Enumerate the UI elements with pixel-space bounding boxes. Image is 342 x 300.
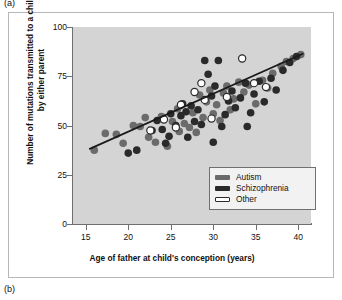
y-tick-mark: [67, 224, 72, 225]
x-tick-mark: [213, 225, 214, 230]
data-point: [209, 138, 217, 146]
legend-item-schizophrenia[interactable]: Schizophrenia: [215, 183, 310, 194]
legend-label: Other: [236, 194, 257, 205]
data-point: [102, 130, 110, 138]
data-point: [211, 82, 219, 90]
data-point: [215, 57, 223, 65]
data-point: [204, 70, 212, 78]
legend-label: Schizophrenia: [236, 183, 289, 194]
x-tick-label: 35: [244, 232, 268, 242]
data-point: [218, 123, 226, 131]
data-point: [201, 57, 209, 65]
x-tick-mark: [298, 225, 299, 230]
data-point: [213, 101, 221, 109]
data-point: [243, 123, 251, 131]
series-autism: [90, 51, 304, 154]
x-tick-mark: [256, 225, 257, 230]
y-tick-mark: [67, 175, 72, 176]
chart-legend: AutismSchizophreniaOther: [209, 167, 316, 210]
y-tick-label: 100: [41, 22, 67, 32]
x-tick-mark: [128, 225, 129, 230]
x-axis-title: Age of father at child's conception (yea…: [9, 253, 335, 263]
data-point: [141, 114, 149, 122]
y-tick-mark: [67, 27, 72, 28]
data-point: [182, 108, 190, 116]
data-point: [152, 138, 160, 146]
data-point: [250, 80, 257, 87]
y-tick-label: 25: [41, 170, 67, 180]
data-point: [192, 129, 200, 137]
legend-swatch-open-circle-icon: [215, 197, 230, 202]
data-point: [184, 134, 192, 142]
x-tick-mark: [171, 225, 172, 230]
data-point: [158, 126, 166, 134]
data-point: [172, 124, 179, 131]
data-point: [272, 86, 280, 94]
data-point: [260, 98, 268, 106]
data-point: [198, 121, 206, 129]
data-point: [247, 109, 255, 117]
figure-frame: Number of mutations transmitted to a chi…: [8, 12, 334, 278]
data-point: [221, 111, 229, 119]
y-tick-mark: [67, 76, 72, 77]
data-point: [250, 90, 258, 98]
y-tick-label: 75: [41, 71, 67, 81]
data-point: [191, 88, 198, 95]
data-point: [232, 104, 240, 112]
legend-swatch-filled-circle-icon: [215, 186, 230, 191]
data-point: [119, 139, 127, 147]
data-point: [267, 74, 275, 82]
legend-item-autism[interactable]: Autism: [215, 172, 310, 183]
data-point: [186, 124, 194, 132]
x-tick-label: 40: [286, 232, 310, 242]
data-point: [162, 139, 170, 147]
data-point: [198, 80, 205, 87]
data-point: [223, 93, 230, 100]
data-point: [165, 133, 173, 141]
data-point: [133, 146, 141, 154]
panel-label-a: (a): [4, 0, 15, 8]
y-tick-label: 50: [41, 121, 67, 131]
x-tick-label: 20: [116, 232, 140, 242]
series-schizophrenia: [124, 53, 300, 157]
legend-label: Autism: [236, 172, 261, 183]
data-point: [279, 67, 287, 75]
legend-item-other[interactable]: Other: [215, 194, 310, 205]
data-point: [147, 127, 154, 134]
data-point: [145, 134, 153, 142]
data-point: [191, 118, 199, 126]
x-tick-mark: [86, 225, 87, 230]
panel-label-b: (b): [4, 284, 15, 294]
x-tick-label: 30: [201, 232, 225, 242]
data-point: [237, 94, 245, 102]
data-point: [194, 106, 202, 114]
data-point: [252, 100, 260, 108]
legend-swatch-filled-circle-icon: [215, 175, 230, 180]
x-tick-label: 15: [74, 232, 98, 242]
x-tick-label: 25: [159, 232, 183, 242]
y-tick-mark: [67, 126, 72, 127]
data-point: [199, 114, 207, 122]
data-point: [124, 149, 132, 157]
data-point: [208, 115, 215, 122]
y-tick-label: 0: [41, 219, 67, 229]
data-point: [239, 55, 246, 62]
data-point: [262, 83, 269, 90]
